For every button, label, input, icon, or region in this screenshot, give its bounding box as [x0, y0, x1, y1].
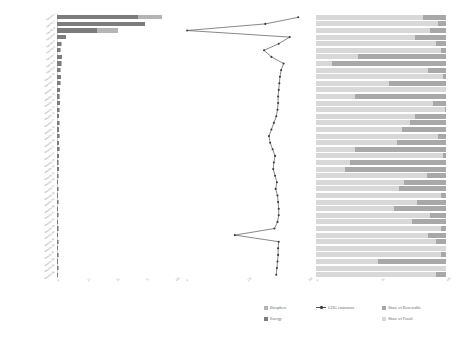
energy-mix-row — [316, 200, 446, 205]
bar-segment-energy — [57, 114, 59, 118]
energy-mix-row — [316, 226, 446, 231]
legend-label: Biosphere — [270, 305, 287, 310]
share-segment-fossil — [316, 87, 446, 92]
ghg-data-point — [264, 23, 266, 25]
footprint-bar-row — [57, 147, 175, 151]
footprint-bar-row — [57, 180, 175, 184]
share-segment-renewable — [404, 180, 446, 185]
bar-segment-energy — [57, 75, 61, 79]
share-segment-fossil — [316, 233, 428, 238]
share-segment-renewable — [402, 127, 446, 132]
footprint-bar-row — [57, 15, 175, 19]
legend-label: Share of Renewable — [388, 305, 421, 310]
share-segment-fossil — [316, 81, 389, 86]
energy-mix-row — [316, 134, 446, 139]
share-segment-fossil — [316, 272, 436, 277]
share-segment-renewable — [433, 101, 446, 106]
footprint-bar-row — [57, 187, 175, 191]
category-axis-labels: Country 1Country 2Country 3Country 4Coun… — [0, 10, 57, 282]
ghg-data-point — [276, 109, 278, 111]
footprint-bar-row — [57, 81, 175, 85]
legend-swatch-icon — [264, 317, 268, 321]
legend-swatch-icon — [264, 306, 268, 310]
axis-tick-label: 0 — [57, 279, 60, 283]
footprint-bar-row — [57, 48, 175, 52]
energy-mix-row — [316, 160, 446, 165]
footprint-bar-row — [57, 114, 175, 118]
ghg-data-point — [278, 241, 280, 243]
ghg-data-point — [273, 122, 275, 124]
footprint-bar-row — [57, 273, 175, 277]
energy-mix-row — [316, 239, 446, 244]
energy-mix-row — [316, 147, 446, 152]
share-segment-fossil — [316, 167, 345, 172]
share-segment-fossil — [316, 134, 438, 139]
ghg-data-point — [276, 181, 278, 183]
ghg-data-point — [279, 76, 281, 78]
energy-mix-row — [316, 272, 446, 277]
share-segment-fossil — [316, 259, 378, 264]
share-segment-fossil — [316, 15, 423, 20]
footprint-bar-row — [57, 233, 175, 237]
footprint-bar-row — [57, 167, 175, 171]
share-segment-renewable — [443, 153, 446, 158]
footprint-bar-row — [57, 94, 175, 98]
axis-tick-label: 500 — [308, 277, 314, 283]
legend-item[interactable]: Share of Fossil — [382, 316, 413, 321]
footprint-bar-row — [57, 193, 175, 197]
footprint-bar-row — [57, 220, 175, 224]
legend-item[interactable]: Biosphere — [264, 305, 287, 310]
footprint-bar-row — [57, 121, 175, 125]
ghg-data-point — [272, 168, 274, 170]
bar-segment-energy — [57, 246, 58, 250]
share-segment-fossil — [316, 21, 438, 26]
ghg-data-point — [272, 148, 274, 150]
energy-mix-row — [316, 21, 446, 26]
energy-mix-row — [316, 15, 446, 20]
share-segment-fossil — [316, 68, 428, 73]
energy-mix-row — [316, 213, 446, 218]
share-segment-renewable — [441, 252, 446, 257]
legend-item[interactable]: Share of Renewable — [382, 305, 421, 310]
footprint-bar-row — [57, 246, 175, 250]
legend-line-marker-icon — [316, 306, 326, 310]
bar-segment-energy — [57, 15, 138, 19]
legend-item[interactable]: GHG emissions — [316, 305, 354, 310]
share-segment-renewable — [332, 61, 446, 66]
share-segment-fossil — [316, 206, 394, 211]
share-segment-renewable — [378, 259, 446, 264]
legend-item[interactable]: Energy — [264, 316, 282, 321]
ghg-data-point — [275, 188, 277, 190]
ghg-emissions-line-svg — [186, 14, 308, 278]
share-segment-renewable — [350, 160, 446, 165]
energy-mix-row — [316, 28, 446, 33]
axis-tick-label: 0 — [186, 279, 189, 283]
energy-mix-row — [316, 140, 446, 145]
share-segment-fossil — [316, 186, 399, 191]
ghg-data-point — [277, 247, 279, 249]
share-segment-fossil — [316, 153, 443, 158]
bar-segment-energy — [57, 101, 60, 105]
share-segment-fossil — [316, 48, 441, 53]
footprint-bar-row — [57, 88, 175, 92]
share-segment-fossil — [316, 61, 332, 66]
bar-segment-energy — [57, 22, 145, 26]
footprint-bar-rows — [57, 14, 175, 278]
energy-mix-row — [316, 193, 446, 198]
energy-mix-rows — [316, 14, 446, 278]
footprint-bar-row — [57, 200, 175, 204]
footprint-bar-row — [57, 22, 175, 26]
footprint-bar-row — [57, 55, 175, 59]
share-segment-fossil — [316, 28, 430, 33]
share-segment-fossil — [316, 173, 427, 178]
share-segment-fossil — [316, 127, 402, 132]
ghg-data-point — [277, 102, 279, 104]
share-segment-renewable — [436, 239, 446, 244]
footprint-bar-row — [57, 101, 175, 105]
bar-segment-energy — [57, 35, 66, 39]
footprint-bar-row — [57, 253, 175, 257]
share-segment-renewable — [417, 200, 446, 205]
share-segment-renewable — [397, 140, 446, 145]
panel-ghg-line — [186, 14, 308, 278]
energy-mix-row — [316, 167, 446, 172]
